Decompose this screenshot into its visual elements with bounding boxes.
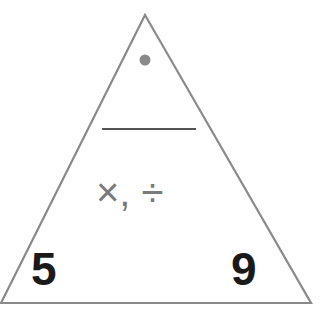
bottom-left-number: 5 [31, 246, 57, 292]
fact-triangle-diagram: ×, ÷ 5 9 [0, 0, 320, 312]
operations-label: ×, ÷ [96, 172, 164, 212]
bottom-right-number: 9 [231, 246, 257, 292]
top-dot [140, 55, 151, 66]
